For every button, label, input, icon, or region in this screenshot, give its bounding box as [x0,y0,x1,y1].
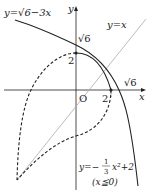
label-two-x: 2 [102,93,108,104]
label-line-yx: y=x [106,19,127,30]
label-curve-sqrt: y=√6−3x [3,7,52,18]
label-sqrt6-x: √6 [124,77,137,88]
label-origin: O [79,93,87,104]
label-sqrt6-y: √6 [78,33,91,44]
label-parabola-rhs: x²+2 [112,162,134,172]
label-parabola-lhs: y=− [78,162,99,172]
graph: y=√6−3x y y=x √6 2 √6 x O 2 y=− 1 3 x²+2… [0,0,152,194]
label-parabola-cond: (x≦0) [92,177,118,187]
label-y-axis: y [67,3,74,14]
label-x-axis: x [139,91,145,102]
label-two-y: 2 [68,55,74,66]
label-parabola-frac-num: 1 [104,158,108,166]
y-axis-arrow [74,6,78,11]
curve-parabola-dashed [17,53,76,180]
label-parabola-frac-den: 3 [104,168,108,176]
